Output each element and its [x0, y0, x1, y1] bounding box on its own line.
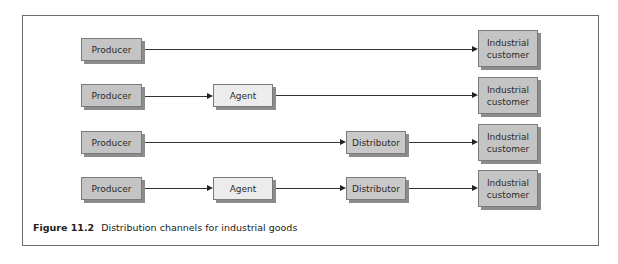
distributor-box-row4: Distributor [346, 177, 406, 200]
producer-box-row3: Producer [81, 131, 142, 154]
connector-line [143, 188, 207, 189]
connector-line [275, 95, 472, 96]
producer-box-row2: Producer [81, 84, 142, 107]
distributor-label: Distributor [352, 137, 400, 149]
industrial-customer-box-row3: Industrial customer [478, 124, 538, 161]
customer-line2: customer [487, 97, 529, 107]
industrial-customer-box-row4: Industrial customer [478, 170, 538, 207]
producer-label: Producer [92, 183, 132, 195]
figure-caption: Figure 11.2 Distribution channels for in… [33, 222, 297, 233]
customer-line1: Industrial [487, 38, 529, 48]
customer-line2: customer [487, 190, 529, 200]
industrial-customer-box-row1: Industrial customer [478, 30, 538, 67]
customer-line2: customer [487, 50, 529, 60]
connector-line [143, 49, 472, 50]
connector-line [143, 96, 207, 97]
agent-box-row4: Agent [213, 177, 273, 200]
agent-label: Agent [230, 183, 257, 195]
industrial-customer-box-row2: Industrial customer [478, 77, 538, 114]
producer-box-row1: Producer [81, 38, 142, 61]
figure-label: Figure 11.2 [33, 222, 94, 233]
producer-box-row4: Producer [81, 177, 142, 200]
distributor-box-row3: Distributor [346, 131, 406, 154]
producer-label: Producer [92, 44, 132, 56]
industrial-customer-label: Industrial customer [487, 177, 529, 201]
connector-line [275, 188, 340, 189]
customer-line1: Industrial [487, 132, 529, 142]
connector-line [143, 142, 340, 143]
agent-label: Agent [230, 90, 257, 102]
customer-line1: Industrial [487, 178, 529, 188]
customer-line1: Industrial [487, 85, 529, 95]
connector-line [408, 188, 472, 189]
industrial-customer-label: Industrial customer [487, 131, 529, 155]
customer-line2: customer [487, 144, 529, 154]
industrial-customer-label: Industrial customer [487, 37, 529, 61]
figure-caption-text: Distribution channels for industrial goo… [101, 222, 297, 233]
industrial-customer-label: Industrial customer [487, 84, 529, 108]
producer-label: Producer [92, 137, 132, 149]
distributor-label: Distributor [352, 183, 400, 195]
agent-box-row2: Agent [213, 84, 273, 107]
connector-line [408, 142, 472, 143]
producer-label: Producer [92, 90, 132, 102]
